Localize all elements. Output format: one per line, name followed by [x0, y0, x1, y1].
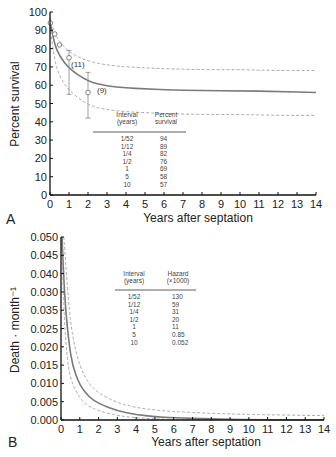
table-cell-interval: 10 [123, 181, 131, 188]
table-cell-interval: 1/4 [129, 308, 138, 315]
x-tick-label: 14 [318, 423, 330, 435]
panel-b-table-header-scale: (×1000) [167, 277, 190, 285]
data-point-circle [86, 90, 91, 95]
estimate-line [62, 237, 324, 420]
panel-a-table: Interval (years) Percent survival 1/5294… [93, 111, 186, 188]
table-cell-value: 94 [160, 135, 168, 142]
panel-a-table-header-percent: Percent [155, 111, 178, 118]
y-tick-label: 20 [35, 152, 47, 164]
table-cell-interval: 1/2 [129, 316, 138, 323]
y-tick-label: 0.025 [30, 323, 58, 335]
table-cell-value: 76 [160, 158, 168, 165]
x-tick-label: 5 [142, 198, 148, 210]
panel-b-label: B [8, 434, 17, 450]
x-tick-label: 11 [262, 423, 273, 435]
table-cell-interval: 5 [125, 173, 129, 180]
table-cell-value: 11 [172, 323, 179, 330]
panel-a-label: A [6, 211, 16, 227]
table-cell-value: 69 [160, 165, 168, 172]
panel-a-table-header-survival: survival [155, 118, 178, 125]
x-tick-label: 14 [310, 198, 322, 210]
x-tick-label: 3 [104, 198, 110, 210]
x-tick-label: 12 [280, 423, 292, 435]
y-tick-label: 0.040 [30, 268, 58, 280]
x-tick-label: 1 [77, 423, 83, 435]
estimate-line [50, 21, 316, 92]
x-tick-label: 7 [189, 423, 195, 435]
y-tick-label: 0.020 [30, 341, 58, 353]
figure-canvas: 0102030405060708090100 01234567891011121… [0, 0, 336, 457]
y-tick-label: 0.015 [30, 359, 58, 371]
confidence-limit-line [50, 17, 316, 70]
x-tick-label: 6 [161, 198, 167, 210]
y-tick-label: 0.050 [30, 231, 58, 243]
panel-a-curves [50, 17, 316, 115]
y-tick-label: 0.005 [30, 396, 58, 408]
y-tick-label: 0.010 [30, 377, 58, 389]
table-cell-value: 0.052 [172, 339, 189, 346]
x-tick-label: 10 [234, 198, 246, 210]
table-cell-interval: 1/52 [121, 135, 134, 142]
panel-a-table-rows: 1/52941/12891/4821/2761695581057 [121, 135, 168, 188]
table-cell-value: 59 [172, 301, 180, 308]
panel-a-survival-chart: 0102030405060708090100 01234567891011121… [6, 6, 322, 227]
x-tick-label: 10 [243, 423, 255, 435]
table-cell-interval: 1 [125, 165, 129, 172]
table-cell-value: 130 [172, 293, 183, 300]
table-cell-value: 31 [172, 308, 180, 315]
y-tick-label: 0.000 [30, 414, 58, 426]
panel-a-annotation-11: (11) [71, 60, 85, 69]
x-tick-label: 7 [180, 198, 186, 210]
x-tick-label: 8 [199, 198, 205, 210]
panel-b-curves [62, 237, 324, 420]
x-tick-label: 4 [133, 423, 139, 435]
panel-a-table-header-years: (years) [117, 118, 137, 126]
panel-b-table-header-years: (years) [124, 277, 144, 285]
x-tick-label: 0 [47, 198, 53, 210]
table-cell-value: 58 [160, 173, 168, 180]
y-tick-label: 0.035 [30, 304, 58, 316]
table-cell-interval: 1/12 [121, 143, 134, 150]
table-cell-interval: 5 [132, 331, 136, 338]
data-point-circle [57, 43, 62, 48]
table-cell-interval: 1/12 [128, 301, 141, 308]
panel-b-table: Interval (years) Hazard (×1000) 1/521301… [115, 270, 196, 346]
y-tick-label: 30 [35, 134, 47, 146]
x-tick-label: 3 [114, 423, 120, 435]
y-tick-label: 40 [35, 116, 47, 128]
confidence-limit-line [64, 237, 324, 416]
x-tick-label: 9 [218, 198, 224, 210]
x-tick-label: 12 [272, 198, 284, 210]
panel-a-y-ticks: 0102030405060708090100 [29, 6, 53, 201]
y-tick-label: 80 [35, 43, 47, 55]
x-tick-label: 2 [85, 198, 91, 210]
y-tick-label: 90 [35, 24, 47, 36]
panel-a-y-axis-title: Percent survival [8, 61, 22, 146]
panel-b-hazard-chart: 0.0000.0050.0100.0150.0200.0250.0350.030… [8, 231, 330, 450]
y-tick-label: 0.030 [30, 286, 58, 298]
table-cell-interval: 10 [130, 339, 138, 346]
x-tick-label: 9 [227, 423, 233, 435]
x-tick-label: 1 [66, 198, 72, 210]
x-tick-label: 13 [291, 198, 303, 210]
table-cell-value: 82 [160, 150, 168, 157]
x-tick-label: 4 [123, 198, 129, 210]
y-tick-label: 0.045 [30, 249, 58, 261]
y-tick-label: 50 [35, 98, 47, 110]
table-cell-value: 57 [160, 181, 168, 188]
table-cell-interval: 1/2 [122, 158, 131, 165]
y-tick-label: 100 [29, 6, 47, 18]
confidence-limit-line [50, 27, 316, 116]
x-tick-label: 2 [96, 423, 102, 435]
x-tick-label: 0 [58, 423, 64, 435]
panel-b-x-axis-title: Years after septation [151, 435, 261, 449]
table-cell-value: 20 [172, 316, 180, 323]
panel-b-table-rows: 1/521301/12591/4311/22011150.85100.052 [128, 293, 189, 346]
panel-b-table-header-interval: Interval [123, 270, 145, 277]
panel-a-data-points [48, 21, 90, 118]
table-cell-interval: 1 [132, 323, 136, 330]
table-cell-value: 0.85 [172, 331, 185, 338]
x-tick-label: 11 [253, 198, 264, 210]
confidence-limit-line [62, 237, 324, 420]
y-tick-label: 60 [35, 79, 47, 91]
